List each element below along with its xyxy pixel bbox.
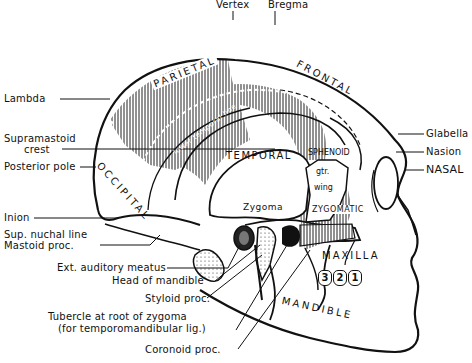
label-posterior-pole: Posterior pole (4, 161, 76, 172)
bone-sphenoid-gtr: gtr. (316, 167, 329, 176)
label-nasion: Nasion (426, 146, 461, 157)
tooth-1: 1 (348, 270, 362, 286)
label-vertex: Vertex (216, 0, 249, 10)
label-styloid-proc: Styloid proc. (145, 293, 210, 304)
bone-temporal: TEMPORAL (226, 150, 292, 161)
label-nasal: NASAL (426, 164, 464, 175)
label-sup-nuchal-line: Sup. nuchal line (4, 229, 87, 240)
label-lambda: Lambda (4, 93, 45, 104)
tooth-2: 2 (333, 270, 347, 286)
label-ext-auditory-meatus: Ext. auditory meatus (57, 262, 166, 273)
label-supramastoid-crest: crest (24, 144, 50, 155)
orbit (374, 157, 398, 209)
label-tubercle-root-zygoma: Tubercle at root of zygoma (48, 311, 187, 322)
bone-sphenoid-wing: wing (314, 183, 333, 192)
skull-diagram: Vertex Bregma Lambda Supramastoid crest … (0, 0, 472, 363)
label-head-of-mandible: Head of mandible (112, 275, 204, 286)
tooth-3: 3 (318, 270, 332, 286)
label-mastoid-proc: Mastoid proc. (4, 240, 74, 251)
label-coronoid-proc: Coronoid proc. (145, 344, 221, 355)
label-inion: Inion (4, 212, 30, 223)
bone-zygomatic: ZYGOMATIC (310, 205, 366, 214)
articular-tubercle (282, 225, 300, 247)
label-bregma: Bregma (268, 0, 308, 10)
bone-sphenoid: SPHENOID (308, 148, 350, 157)
label-glabella: Glabella (426, 128, 468, 139)
skull-drawing (0, 0, 472, 363)
mandible-ramus (270, 265, 275, 320)
bone-maxilla: MAXILLA (322, 250, 379, 261)
bone-zygoma: Zygoma (243, 202, 283, 212)
label-supramastoid: Supramastoid (4, 133, 76, 144)
label-temporomandibular-lig: (for temporomandibular lig.) (58, 323, 206, 334)
